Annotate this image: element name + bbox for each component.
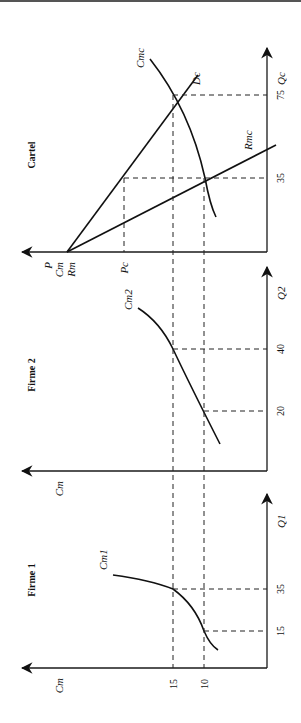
- tick-q1-15: 15: [275, 626, 286, 636]
- q2-axis-label: Q2: [275, 286, 287, 300]
- price-label-rm: Rm: [65, 262, 77, 278]
- tick-cm-15: 15: [168, 679, 179, 689]
- rmc-label: Rmc: [242, 130, 254, 151]
- qc-axis-label: Qc: [275, 72, 287, 85]
- cm2-label: Cm2: [122, 289, 134, 310]
- cartel-panel: Cartel P Cm Rm Pc Cmc Dc Rmc Qc 75 35: [22, 48, 287, 278]
- tick-q2-40: 40: [275, 344, 286, 354]
- cm1-label: Cm1: [97, 549, 109, 570]
- firme2-panel: Firme 2 Cm Cm2 Q2 40 20: [22, 267, 287, 496]
- marginal-revenue-curve-rmc: [67, 145, 276, 252]
- cartel-title: Cartel: [26, 141, 37, 168]
- tick-qc-35: 35: [275, 173, 286, 183]
- marginal-cost-curve-cm1: [113, 575, 218, 650]
- firme1-cm-axis-label: Cm: [53, 678, 65, 693]
- q1-axis-label: Q1: [275, 515, 287, 528]
- firme1-title: Firme 1: [26, 563, 37, 597]
- firme1-panel: Firme 1 Cm Cm1 Q1 35 15 15 10: [22, 95, 287, 693]
- price-label-cm: Cm: [53, 262, 65, 277]
- tick-q2-20: 20: [275, 406, 286, 416]
- firme2-cm-axis-label: Cm: [53, 481, 65, 496]
- tick-qc-75: 75: [275, 90, 286, 100]
- cmc-label: Cmc: [134, 48, 146, 68]
- pc-label: Pc: [118, 262, 130, 275]
- marginal-cost-curve-cm2: [138, 308, 220, 444]
- firme2-title: Firme 2: [26, 358, 37, 392]
- tick-cm-10: 10: [199, 679, 210, 689]
- tick-q1-35: 35: [275, 584, 286, 594]
- dc-label: Dc: [190, 72, 202, 86]
- cartel-diagram: Cartel P Cm Rm Pc Cmc Dc Rmc Qc 75 35 Fi…: [0, 0, 301, 723]
